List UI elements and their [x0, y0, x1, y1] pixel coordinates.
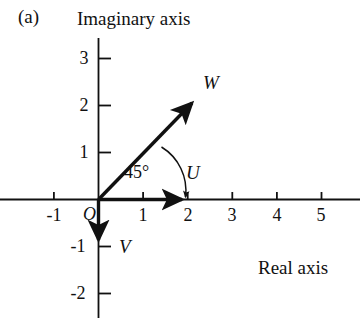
origin-label: O — [83, 205, 96, 223]
tick-label-real-2: 2 — [178, 206, 198, 224]
angle-label: 45° — [124, 163, 149, 181]
tick-label-imag-neg1: -1 — [63, 237, 93, 255]
tick-label-imag-neg2: -2 — [63, 284, 93, 302]
imaginary-axis-title: Imaginary axis — [77, 9, 190, 28]
tick-label-imag-1: 1 — [75, 143, 93, 161]
tick-label-real-3: 3 — [222, 206, 242, 224]
imaginary-axis-ticks — [99, 59, 112, 294]
angle-arc — [162, 147, 186, 197]
tick-label-real-1: 1 — [133, 206, 153, 224]
tick-label-real-5: 5 — [311, 206, 331, 224]
tick-label-imag-3: 3 — [75, 49, 93, 67]
vector-label-w: W — [203, 73, 219, 92]
tick-label-imag-2: 2 — [75, 96, 93, 114]
real-axis-ticks — [54, 192, 322, 200]
argand-diagram-figure: (a) Imaginary axis Real axis -1 1 2 3 4 … — [0, 0, 360, 318]
tick-label-real-4: 4 — [267, 206, 287, 224]
panel-label: (a) — [18, 7, 39, 26]
vector-label-v: V — [119, 237, 131, 256]
tick-label-real-neg1: -1 — [39, 206, 69, 224]
real-axis-title: Real axis — [258, 258, 328, 277]
vector-label-u: U — [186, 163, 200, 182]
vector-w-arrow — [99, 103, 193, 200]
